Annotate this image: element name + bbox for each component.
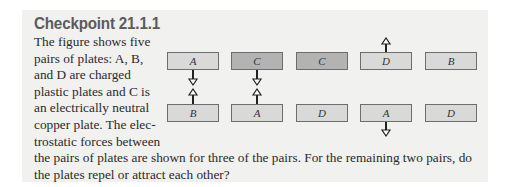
- plate-pair1-top: A: [167, 52, 219, 70]
- text-line: and D are charged: [34, 67, 164, 84]
- checkpoint-text-full: the pairs of plates are shown for three …: [34, 150, 484, 183]
- plate-pair2-top: C: [231, 52, 283, 70]
- text-line: the plates repel or attract each other?: [34, 167, 484, 184]
- plate-pair4-bottom: A: [360, 104, 412, 122]
- text-line: The figure shows five: [34, 34, 164, 51]
- plate-pair4-top: D: [360, 52, 412, 70]
- attract-arrows-icon: [187, 70, 199, 105]
- text-line: plastic plates and C is: [34, 84, 164, 101]
- plate-pair5-top: B: [425, 52, 477, 70]
- text-line: pairs of plates: A, B,: [34, 51, 164, 68]
- plate-pair2-bottom: A: [231, 104, 283, 122]
- plate-pair3-top: C: [296, 52, 348, 70]
- text-line: trostatic forces between: [34, 134, 164, 151]
- checkpoint-text-wrapped: The figure shows five pairs of plates: A…: [34, 34, 164, 150]
- plate-pair1-bottom: B: [167, 104, 219, 122]
- repel-arrow-down-icon: [380, 122, 392, 138]
- attract-arrows-icon: [251, 70, 263, 105]
- repel-arrow-up-icon: [380, 37, 392, 53]
- text-line: copper plate. The elec-: [34, 117, 164, 134]
- plate-pair3-bottom: D: [296, 104, 348, 122]
- checkpoint-title: Checkpoint 21.1.1: [34, 14, 160, 33]
- plate-pair5-bottom: D: [425, 104, 477, 122]
- text-line: the pairs of plates are shown for three …: [34, 150, 484, 167]
- text-line: an electrically neutral: [34, 100, 164, 117]
